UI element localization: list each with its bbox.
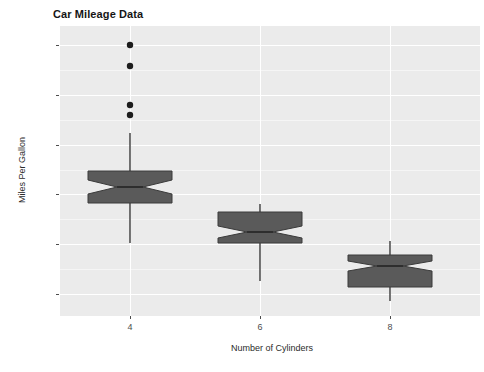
outlier-point-4-1 bbox=[127, 63, 133, 69]
chart-figure: Car Mileage Data Miles Per Gallon Number… bbox=[0, 0, 484, 372]
box-8 bbox=[348, 255, 432, 287]
boxplot-svg bbox=[0, 0, 484, 372]
box-6 bbox=[218, 212, 302, 243]
outlier-point-4-3 bbox=[127, 112, 133, 118]
outlier-point-4-2 bbox=[127, 102, 133, 108]
outlier-point-4-0 bbox=[127, 42, 133, 48]
